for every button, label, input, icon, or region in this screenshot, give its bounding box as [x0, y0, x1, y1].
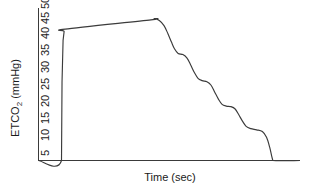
y-tick-labels: 5 10 15 20 25 30 35 40 45 50	[39, 0, 51, 156]
chart-figure: 5 10 15 20 25 30 35 40 45 50 ETCO2 (mmHg…	[0, 0, 320, 190]
capnography-plot: 5 10 15 20 25 30 35 40 45 50 ETCO2 (mmHg…	[0, 0, 320, 190]
y-axis-title: ETCO2 (mmHg)	[9, 59, 24, 137]
y-tick-label: 30	[39, 61, 51, 73]
y-tick-label: 15	[39, 112, 51, 124]
y-tick-label: 5	[39, 150, 51, 156]
y-tick-label: 35	[39, 44, 51, 56]
y-tick-label: 20	[39, 95, 51, 107]
y-tick-label: 25	[39, 78, 51, 90]
y-tick-label: 10	[39, 129, 51, 141]
y-tick-label: 45	[39, 12, 51, 24]
y-axis-title-text: ETCO2 (mmHg)	[9, 59, 24, 137]
x-axis-title: Time (sec)	[144, 171, 196, 183]
y-axis-title-units: (mmHg)	[9, 59, 21, 102]
etco2-waveform-line	[39, 19, 301, 167]
y-tick-label: 50	[39, 0, 51, 9]
y-tick-label: 40	[39, 27, 51, 39]
y-axis-title-main: ETCO	[9, 106, 21, 137]
